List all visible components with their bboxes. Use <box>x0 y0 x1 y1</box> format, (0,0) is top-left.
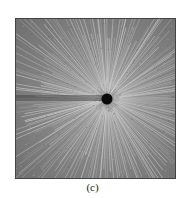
noise-speck <box>90 126 91 127</box>
noise-speck <box>128 51 129 52</box>
noise-speck <box>61 103 62 104</box>
noise-speck <box>99 172 100 173</box>
noise-speck <box>140 71 141 72</box>
noise-speck <box>29 134 30 135</box>
noise-speck <box>93 150 94 151</box>
noise-speck <box>108 142 109 143</box>
noise-speck <box>144 125 145 126</box>
noise-speck <box>21 166 22 167</box>
noise-speck <box>55 158 56 159</box>
noise-speck <box>44 148 45 149</box>
noise-speck <box>111 49 112 50</box>
noise-speck <box>166 133 167 134</box>
noise-speck <box>141 106 142 107</box>
noise-speck <box>70 169 71 170</box>
noise-speck <box>55 149 56 150</box>
noise-speck <box>31 89 32 90</box>
noise-speck <box>133 60 134 61</box>
center-dot <box>102 94 113 105</box>
noise-speck <box>150 26 151 27</box>
noise-speck <box>35 90 36 91</box>
noise-speck <box>163 84 164 85</box>
noise-speck <box>146 105 147 106</box>
noise-speck <box>163 65 164 66</box>
noise-speck <box>65 148 66 149</box>
noise-speck <box>150 130 151 131</box>
noise-speck <box>101 134 102 135</box>
noise-speck <box>102 47 103 48</box>
noise-speck <box>36 48 37 49</box>
noise-speck <box>139 146 140 147</box>
noise-speck <box>81 105 82 106</box>
noise-speck <box>63 147 64 148</box>
noise-speck <box>79 75 80 76</box>
noise-speck <box>83 152 84 153</box>
noise-speck <box>85 152 86 153</box>
noise-speck <box>27 132 28 133</box>
noise-speck <box>76 126 77 127</box>
noise-speck <box>52 30 53 31</box>
noise-speck <box>112 42 113 43</box>
noise-speck <box>171 26 172 27</box>
noise-speck <box>151 24 152 25</box>
noise-speck <box>168 120 169 121</box>
noise-speck <box>157 147 158 148</box>
noise-speck <box>80 151 81 152</box>
noise-speck <box>151 84 152 85</box>
noise-speck <box>173 30 174 31</box>
noise-speck <box>64 90 65 91</box>
noise-speck <box>99 105 100 106</box>
noise-speck <box>166 19 167 20</box>
noise-speck <box>157 38 158 39</box>
noise-speck <box>122 43 123 44</box>
noise-speck <box>74 118 75 119</box>
noise-speck <box>84 92 85 93</box>
noise-speck <box>107 152 108 153</box>
noise-speck <box>86 127 87 128</box>
noise-speck <box>171 101 172 102</box>
noise-speck <box>28 143 29 144</box>
noise-speck <box>58 63 59 64</box>
noise-speck <box>70 70 71 71</box>
noise-speck <box>76 104 77 105</box>
noise-speck <box>103 23 104 24</box>
noise-speck <box>45 156 46 157</box>
noise-speck <box>91 25 92 26</box>
noise-speck <box>79 163 80 164</box>
noise-speck <box>114 168 115 169</box>
noise-speck <box>156 63 157 64</box>
noise-speck <box>101 107 102 108</box>
noise-speck <box>92 39 93 40</box>
noise-speck <box>106 74 107 75</box>
noise-speck <box>127 76 128 77</box>
noise-speck <box>113 113 114 114</box>
noise-speck <box>113 54 114 55</box>
noise-speck <box>158 68 159 69</box>
figure-caption: (c) <box>0 181 185 193</box>
noise-speck <box>58 133 59 134</box>
noise-speck <box>116 64 117 65</box>
noise-speck <box>164 104 165 105</box>
noise-speck <box>102 41 103 42</box>
noise-speck <box>64 115 65 116</box>
noise-speck <box>129 145 130 146</box>
noise-speck <box>170 132 171 133</box>
noise-speck <box>127 72 128 73</box>
noise-speck <box>90 48 91 49</box>
noise-speck <box>163 171 164 172</box>
noise-speck <box>98 142 99 143</box>
noise-speck <box>86 145 87 146</box>
noise-speck <box>16 113 17 114</box>
noise-speck <box>145 99 146 100</box>
noise-speck <box>33 175 34 176</box>
noise-speck <box>16 40 17 41</box>
noise-speck <box>123 45 124 46</box>
noise-speck <box>174 48 175 49</box>
noise-speck <box>163 63 164 64</box>
noise-speck <box>22 173 23 174</box>
noise-speck <box>129 138 130 139</box>
noise-speck <box>169 146 170 147</box>
noise-speck <box>27 178 28 179</box>
noise-speck <box>138 65 139 66</box>
noise-speck <box>162 86 163 87</box>
